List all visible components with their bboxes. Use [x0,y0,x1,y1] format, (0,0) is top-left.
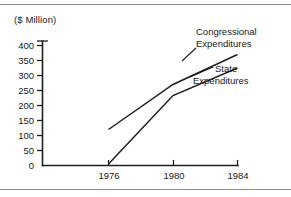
y-tick-label-250: 250 [4,85,34,96]
y-tick-label-400: 400 [4,40,34,51]
y-axis-ticks [37,46,43,151]
x-tick-label-1984: 1984 [218,170,258,181]
series-label-state-line1: State [215,63,248,75]
y-tick-label-100: 100 [4,130,34,141]
leader-line-congressional [182,48,196,61]
y-tick-label-300: 300 [4,70,34,81]
series-label-state-expenditures: State Expenditures [215,63,248,86]
chart-figure: ($ Million) [0,0,291,197]
x-axis-ticks [109,160,238,166]
series-label-congressional-line2: Expenditures [196,38,257,50]
x-tick-label-1976: 1976 [89,170,129,181]
y-tick-label-0: 0 [4,160,34,171]
y-tick-label-200: 200 [4,100,34,111]
series-label-congressional-expenditures: Congressional Expenditures [196,26,257,49]
series-label-congressional-line1: Congressional [196,26,257,38]
series-label-state-line2: Expenditures [193,75,248,87]
y-tick-label-150: 150 [4,115,34,126]
x-tick-label-1980: 1980 [154,170,194,181]
y-tick-label-50: 50 [4,145,34,156]
y-tick-label-350: 350 [4,55,34,66]
